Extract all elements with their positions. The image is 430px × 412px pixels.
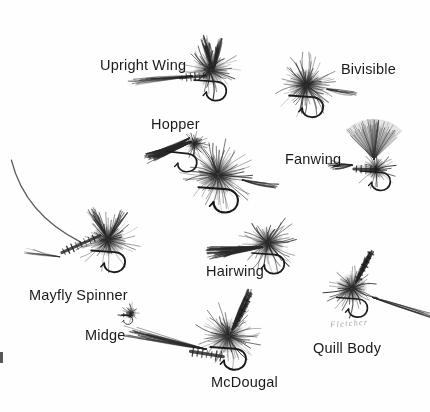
illustration-plate: Upright Wing Bivisible Hopper Fanwing Ha… [0,0,430,412]
label-hopper: Hopper [151,117,200,132]
left-edge-mark [0,352,3,363]
label-quill-body: Quill Body [313,341,381,356]
label-bivisible: Bivisible [341,62,396,77]
label-upright-wing: Upright Wing [100,58,186,73]
label-mayfly-spinner: Mayfly Spinner [29,288,128,303]
label-hairwing: Hairwing [206,264,264,279]
label-fanwing: Fanwing [285,152,341,167]
label-mcdougal: McDougal [211,375,278,390]
label-midge: Midge [85,328,126,343]
